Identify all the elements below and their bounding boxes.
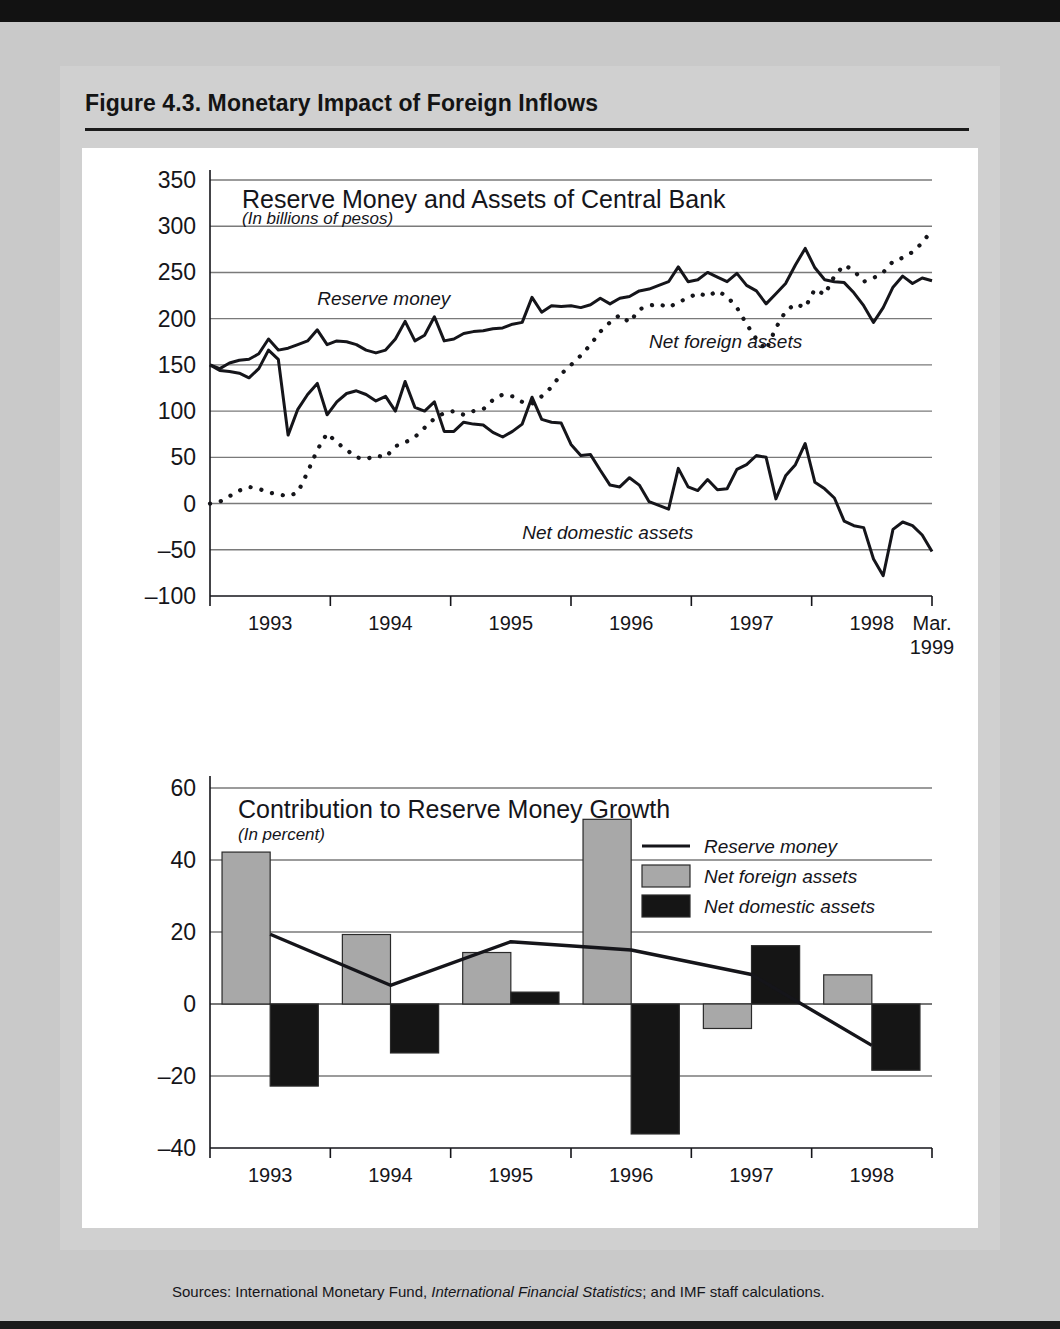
bar-net-foreign-assets-1997 bbox=[703, 1004, 751, 1028]
figure-panel: Figure 4.3. Monetary Impact of Foreign I… bbox=[60, 66, 1000, 1250]
y-tick-label: 20 bbox=[170, 919, 196, 945]
y-tick-label: –20 bbox=[158, 1063, 196, 1089]
y-tick-label: 350 bbox=[158, 167, 196, 193]
x-tick-label: 1994 bbox=[368, 1164, 413, 1186]
x-tick-label: 1998 bbox=[850, 612, 895, 634]
scan-top-band bbox=[0, 0, 1060, 22]
legend-marker-gray bbox=[642, 865, 690, 887]
y-tick-label: 40 bbox=[170, 847, 196, 873]
y-tick-label: 200 bbox=[158, 306, 196, 332]
bar-net-foreign-assets-1998 bbox=[824, 975, 872, 1004]
legend-label-reserve-money: Reserve money bbox=[704, 836, 839, 857]
bar-net-domestic-assets-1994 bbox=[391, 1004, 439, 1053]
x-tick-label: 1998 bbox=[850, 1164, 895, 1186]
bar-net-foreign-assets-1996 bbox=[583, 819, 631, 1004]
x-tick-label: 1993 bbox=[248, 1164, 293, 1186]
x-tick-label: Mar. bbox=[913, 612, 952, 634]
x-tick-label: 1997 bbox=[729, 1164, 774, 1186]
x-tick-label: 1995 bbox=[489, 1164, 534, 1186]
bar-net-foreign-assets-1995 bbox=[463, 953, 511, 1004]
bar-net-domestic-assets-1996 bbox=[631, 1004, 679, 1134]
bar-net-domestic-assets-1997 bbox=[752, 946, 800, 1004]
y-tick-label: –50 bbox=[158, 537, 196, 563]
series-net-foreign-assets bbox=[210, 230, 932, 504]
legend-label-net-foreign-assets: Net foreign assets bbox=[704, 866, 858, 887]
annotation-reserve-money: Reserve money bbox=[317, 288, 452, 309]
scan-bottom-band bbox=[0, 1321, 1060, 1329]
page-background: Figure 4.3. Monetary Impact of Foreign I… bbox=[0, 0, 1060, 1329]
y-tick-label: 50 bbox=[170, 444, 196, 470]
sources-prefix: Sources: International Monetary Fund, bbox=[172, 1283, 431, 1300]
y-tick-label: –40 bbox=[158, 1135, 196, 1161]
x-tick-label: 1994 bbox=[368, 612, 413, 634]
x-tick-label: 1995 bbox=[489, 612, 534, 634]
x-tick-label-secondline: 1999 bbox=[910, 636, 955, 658]
legend-marker-black bbox=[642, 895, 690, 917]
title-divider bbox=[85, 128, 969, 131]
chart-contribution-to-reserve-money-growth: –40–200204060199319941995199619971998Con… bbox=[82, 748, 978, 1228]
bar-net-domestic-assets-1993 bbox=[270, 1004, 318, 1086]
x-tick-label: 1993 bbox=[248, 612, 293, 634]
annotation-net-domestic-assets: Net domestic assets bbox=[522, 522, 694, 543]
y-tick-label: 100 bbox=[158, 398, 196, 424]
y-tick-label: 0 bbox=[183, 491, 196, 517]
figure-title: Figure 4.3. Monetary Impact of Foreign I… bbox=[85, 90, 598, 117]
x-tick-label: 1996 bbox=[609, 612, 654, 634]
sources-suffix: ; and IMF staff calculations. bbox=[642, 1283, 824, 1300]
plot-card: –100–50050100150200250300350199319941995… bbox=[82, 148, 978, 1228]
bar-net-domestic-assets-1998 bbox=[872, 1004, 920, 1070]
y-tick-label: 300 bbox=[158, 213, 196, 239]
x-tick-label: 1997 bbox=[729, 612, 774, 634]
chart-subtitle: (In billions of pesos) bbox=[242, 209, 393, 228]
bar-net-domestic-assets-1995 bbox=[511, 992, 559, 1004]
y-tick-label: 250 bbox=[158, 259, 196, 285]
chart-subtitle: (In percent) bbox=[238, 825, 325, 844]
y-tick-label: –100 bbox=[145, 583, 196, 609]
y-tick-label: 0 bbox=[183, 991, 196, 1017]
y-tick-label: 60 bbox=[170, 775, 196, 801]
bar-net-foreign-assets-1993 bbox=[222, 852, 270, 1004]
annotation-net-foreign-assets: Net foreign assets bbox=[649, 331, 803, 352]
chart-reserve-money-and-assets: –100–50050100150200250300350199319941995… bbox=[82, 148, 978, 748]
sources-italic-title: International Financial Statistics bbox=[431, 1283, 642, 1300]
sources-note: Sources: International Monetary Fund, In… bbox=[172, 1283, 825, 1300]
legend-label-net-domestic-assets: Net domestic assets bbox=[704, 896, 876, 917]
y-tick-label: 150 bbox=[158, 352, 196, 378]
x-tick-label: 1996 bbox=[609, 1164, 654, 1186]
